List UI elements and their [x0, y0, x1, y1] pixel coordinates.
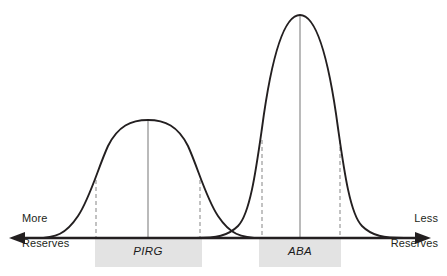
- axis-label-less-reserves: Less Reserves: [391, 199, 438, 262]
- axis-label-less-line2: Reserves: [391, 237, 438, 250]
- reserves-distribution-figure: More Reserves Less Reserves PIRG ABA: [0, 0, 447, 276]
- axis-label-more-line1: More: [22, 212, 69, 225]
- group-label-aba: ABA: [288, 245, 312, 257]
- group-label-pirg: PIRG: [133, 245, 162, 257]
- distribution-curve-pirg: [36, 120, 262, 238]
- axis-label-more-line2: Reserves: [22, 237, 69, 250]
- axis-label-more-reserves: More Reserves: [22, 199, 69, 262]
- axis-label-less-line1: Less: [391, 212, 438, 225]
